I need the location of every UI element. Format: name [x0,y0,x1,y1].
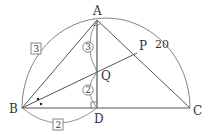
label-seg-QD: 2 [85,85,91,95]
angle-dot-lower [40,103,42,105]
label-arc-BD: 2 [56,120,62,130]
label-P: P [139,39,147,53]
outer-arc [22,18,190,108]
label-arc-AB: 3 [34,44,40,54]
bisector-BP [22,53,137,108]
geometry-figure: A B C D Q P 20 3 2 3 2 [0,0,215,135]
label-arc-AC: 20 [155,38,169,51]
label-C: C [193,104,202,118]
label-Q: Q [101,69,111,83]
angle-dot-upper [37,98,39,100]
label-D: D [94,112,104,126]
diagram-canvas: A B C D Q P 20 3 2 3 2 [0,0,215,135]
label-B: B [9,102,18,116]
label-A: A [92,4,102,18]
side-AC [97,20,190,108]
label-seg-AQ: 3 [85,42,91,52]
